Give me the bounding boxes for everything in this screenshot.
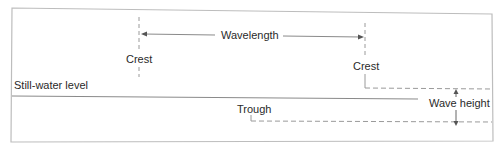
crest-left-label: Crest	[126, 53, 152, 65]
crest-right-label: Crest	[353, 60, 379, 72]
still-water-label: Still-water level	[14, 79, 88, 91]
wavelength-label: Wavelength	[221, 29, 279, 41]
wave-height-label: Wave height	[428, 97, 491, 109]
trough-label: Trough	[237, 103, 271, 115]
